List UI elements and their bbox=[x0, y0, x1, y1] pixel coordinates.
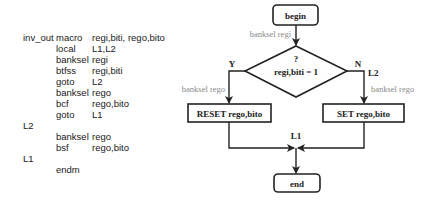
flowchart: begin banksel regi ? regi,biti = 1 Y ban… bbox=[0, 0, 446, 202]
arrow-set-to-merge bbox=[298, 122, 364, 148]
banksel-rego-left-label: banksel rego bbox=[182, 84, 225, 94]
decision-question: ? bbox=[294, 54, 299, 64]
no-label: N bbox=[355, 59, 362, 69]
reset-label: RESET rego,bito bbox=[197, 109, 263, 119]
reset-process-box: RESET rego,bito bbox=[188, 104, 271, 122]
banksel-rego-right-label: banksel rego bbox=[371, 84, 414, 94]
decision-condition: regi,biti = 1 bbox=[274, 67, 319, 77]
decision-diamond: ? regi,biti = 1 bbox=[245, 46, 347, 97]
l2-label: L2 bbox=[368, 68, 379, 78]
l1-label: L1 bbox=[291, 131, 302, 141]
yes-label: Y bbox=[229, 59, 236, 69]
arrow-no-branch bbox=[347, 71, 364, 103]
arrow-yes-branch bbox=[229, 71, 245, 103]
arrow-reset-to-merge bbox=[229, 122, 294, 148]
set-process-box: SET rego,bito bbox=[323, 104, 404, 122]
banksel-regi-label: banksel regi bbox=[250, 29, 292, 39]
begin-terminal: begin bbox=[273, 5, 318, 25]
end-terminal: end bbox=[274, 174, 320, 192]
begin-label: begin bbox=[285, 11, 306, 21]
end-label: end bbox=[290, 179, 304, 189]
set-label: SET rego,bito bbox=[337, 109, 391, 119]
